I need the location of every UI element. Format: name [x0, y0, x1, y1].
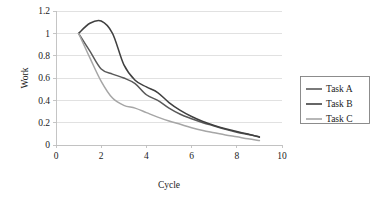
- series-line-task-c: [79, 33, 260, 140]
- gridlines-group: [56, 11, 282, 145]
- tickmarks-group: [53, 11, 282, 148]
- x-tick-label: 8: [234, 151, 239, 161]
- y-tick-label: 0: [45, 140, 50, 150]
- y-tick-label: 1.2: [38, 6, 50, 16]
- series-line-task-b: [79, 20, 260, 137]
- legend-label-task-a: Task A: [326, 84, 353, 94]
- y-tick-label: 0.4: [38, 96, 50, 106]
- line-chart: 00.20.40.60.811.2 0246810 Work Cycle Tas…: [0, 0, 375, 202]
- x-tick-label: 2: [99, 151, 104, 161]
- y-tick-label: 0.6: [38, 73, 50, 83]
- x-tick-label: 4: [144, 151, 149, 161]
- y-axis-title: Work: [20, 67, 30, 88]
- legend-label-task-b: Task B: [326, 99, 353, 109]
- x-axis-title: Cycle: [158, 180, 180, 190]
- chart-legend: Task ATask BTask C: [301, 77, 370, 125]
- y-tick-label: 0.2: [38, 118, 50, 128]
- legend-label-task-c: Task C: [326, 114, 353, 124]
- x-tick-label: 10: [277, 151, 287, 161]
- x-axis-tick-labels: 0246810: [54, 151, 287, 161]
- x-tick-label: 6: [189, 151, 194, 161]
- x-tick-label: 0: [54, 151, 59, 161]
- y-tick-label: 1: [45, 29, 50, 39]
- y-axis-tick-labels: 00.20.40.60.811.2: [38, 6, 50, 150]
- chart-figure: 00.20.40.60.811.2 0246810 Work Cycle Tas…: [0, 0, 375, 202]
- y-tick-label: 0.8: [38, 51, 50, 61]
